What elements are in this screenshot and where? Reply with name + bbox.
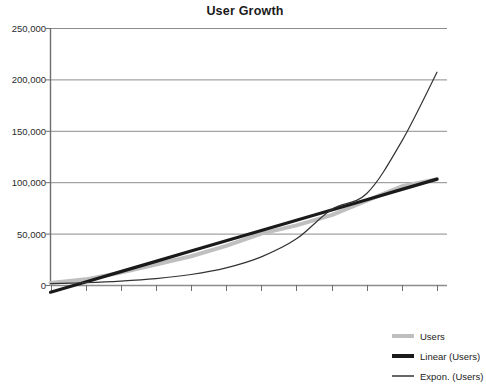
line-swatch-icon [392, 371, 414, 381]
legend-item-expon-users[interactable]: Expon. (Users) [392, 366, 486, 386]
legend-item-linear-users[interactable]: Linear (Users) [392, 346, 486, 366]
line-swatch-icon [392, 331, 414, 341]
legend-label-linear-users: Linear (Users) [420, 351, 480, 362]
gridlines [46, 29, 448, 286]
chart-container: User Growth 250,000 200,000 150,000 100,… [0, 0, 486, 387]
series-line-expon-trend [51, 72, 438, 283]
chart-legend: Users Linear (Users) Expon. (Users) [392, 326, 486, 386]
series-line-linear-trend [51, 179, 438, 292]
legend-item-users[interactable]: Users [392, 326, 486, 346]
legend-label-expon-users: Expon. (Users) [420, 371, 483, 382]
legend-label-users: Users [420, 331, 445, 342]
line-swatch-icon [392, 351, 414, 361]
